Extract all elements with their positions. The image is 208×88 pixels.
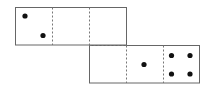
face-one-pip bbox=[141, 62, 146, 67]
top-strip-outline bbox=[16, 8, 127, 46]
face-four-pips bbox=[169, 53, 193, 77]
face-two-pips bbox=[22, 13, 45, 38]
cube-net-diagram bbox=[0, 0, 208, 88]
